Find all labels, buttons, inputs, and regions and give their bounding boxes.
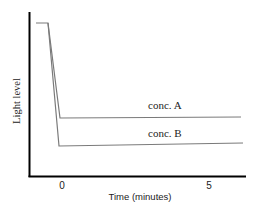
- series-label-conc-a: conc. A: [148, 99, 182, 111]
- x-tick-5: 5: [206, 180, 212, 191]
- y-axis-label: Light level: [11, 78, 22, 124]
- series-conc-a-line: [36, 23, 241, 118]
- light-level-chart: conc. A conc. B 0 5 Time (minutes) Light…: [0, 0, 261, 210]
- x-axis-label: Time (minutes): [109, 191, 172, 202]
- series-conc-b-line: [48, 23, 243, 146]
- x-tick-0: 0: [59, 180, 65, 191]
- series-label-conc-b: conc. B: [148, 127, 182, 139]
